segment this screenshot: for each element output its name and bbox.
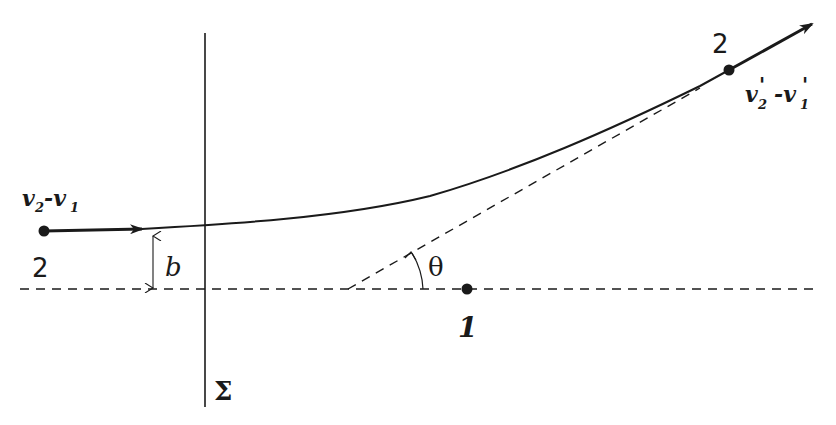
particle-2-start-point bbox=[39, 226, 50, 237]
svg-text:-v: -v bbox=[774, 81, 796, 107]
incoming-velocity-label: v 2 -v 1 bbox=[22, 185, 79, 215]
outgoing-velocity-arrow bbox=[729, 24, 812, 70]
svg-text:-v: -v bbox=[44, 185, 66, 211]
particle-2-end-point bbox=[724, 65, 735, 76]
outgoing-velocity-label: v 2 ' -v 1 ' bbox=[745, 73, 809, 112]
particle-2-end-label: 2 bbox=[712, 29, 729, 59]
scattering-trajectory-curve bbox=[140, 70, 729, 229]
svg-text:1: 1 bbox=[70, 200, 79, 215]
svg-text:': ' bbox=[759, 73, 765, 97]
impact-parameter-label: b bbox=[165, 252, 182, 282]
svg-text:v: v bbox=[22, 185, 35, 211]
particle-1-point bbox=[462, 284, 473, 295]
svg-text:': ' bbox=[802, 73, 808, 97]
svg-text:1: 1 bbox=[800, 97, 809, 112]
angle-theta-arc bbox=[412, 253, 423, 289]
asymptote-dashed-line bbox=[348, 88, 700, 289]
plane-sigma-label: Σ bbox=[214, 376, 232, 406]
scattering-angle-label: θ bbox=[428, 252, 444, 282]
scattering-diagram: v 2 -v 1 v 2 ' -v 1 ' 2 2 1 b θ Σ bbox=[0, 0, 836, 425]
incoming-velocity-arrow bbox=[44, 229, 142, 231]
svg-text:2: 2 bbox=[757, 97, 767, 112]
particle-2-start-label: 2 bbox=[32, 253, 49, 283]
particle-1-label: 1 bbox=[458, 311, 477, 344]
svg-text:v: v bbox=[745, 81, 758, 107]
svg-text:2: 2 bbox=[34, 200, 44, 215]
